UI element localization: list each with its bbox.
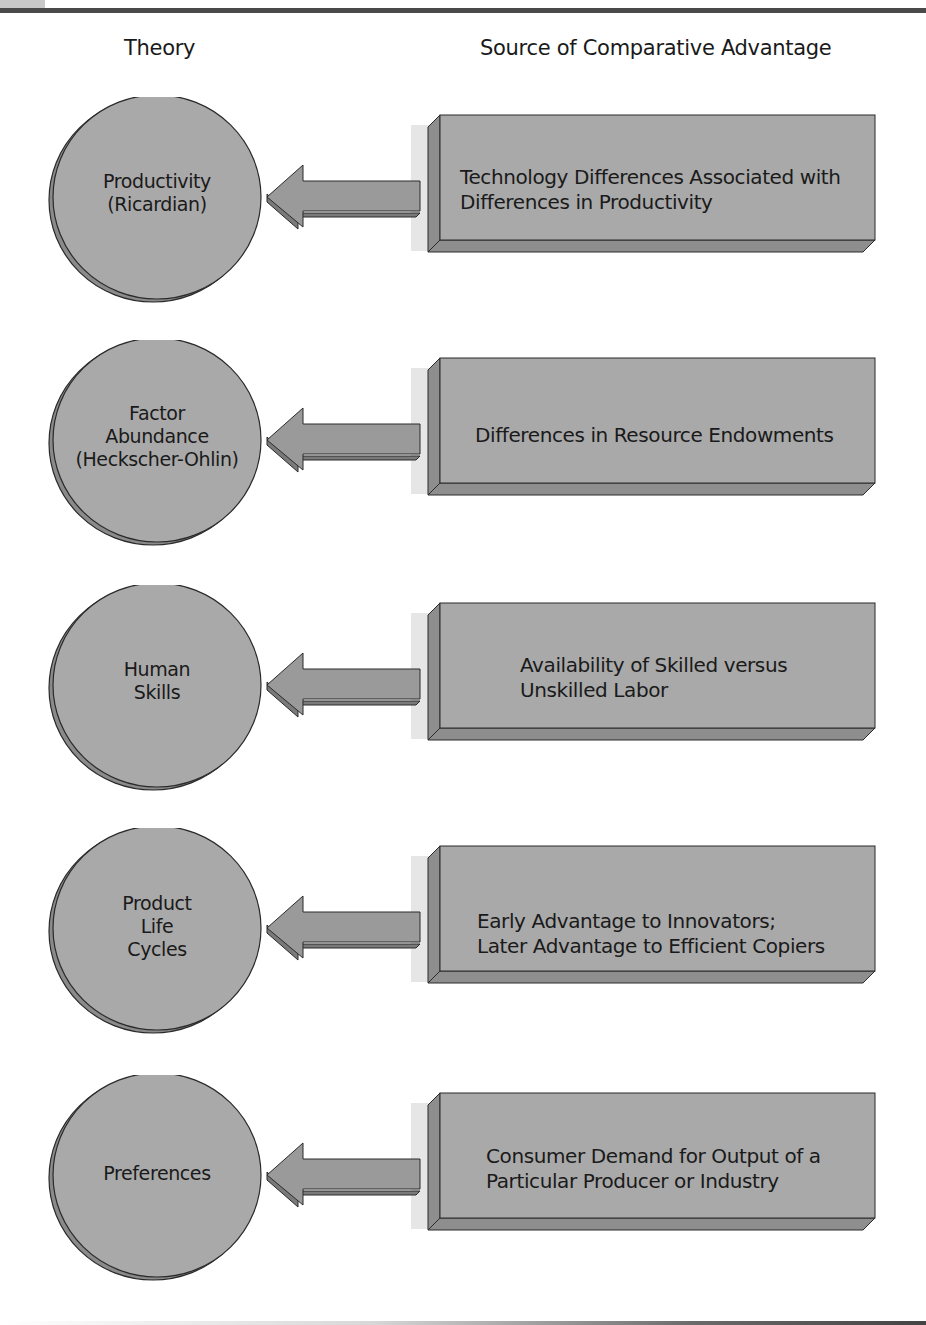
theory-row-human-skills: Human Skills Availability of Skilled ver…	[0, 585, 926, 815]
source-box-label: Consumer Demand for Output of a Particul…	[486, 1144, 821, 1194]
bottom-rule	[0, 1321, 926, 1325]
source-box-label: Differences in Resource Endowments	[475, 423, 834, 448]
theory-row-product-life-cycles: Product Life Cycles Early Advantage to I…	[0, 828, 926, 1058]
theory-circle-label: Product Life Cycles	[52, 892, 262, 961]
theory-circle-label: Factor Abundance (Heckscher-Ohlin)	[52, 402, 262, 471]
theory-row-productivity: Productivity (Ricardian) Technology Diff…	[0, 97, 926, 327]
top-rule	[0, 8, 926, 13]
theory-circle-label: Productivity (Ricardian)	[52, 170, 262, 216]
theory-circle-label: Preferences	[52, 1162, 262, 1185]
source-box-label: Early Advantage to Innovators; Later Adv…	[477, 909, 825, 959]
theory-column-header: Theory	[124, 36, 195, 60]
source-column-header: Source of Comparative Advantage	[480, 36, 831, 60]
source-box-label: Availability of Skilled versus Unskilled…	[520, 653, 787, 703]
source-box-label: Technology Differences Associated with D…	[460, 165, 841, 215]
theory-circle-label: Human Skills	[52, 658, 262, 704]
theory-row-preferences: Preferences Consumer Demand for Output o…	[0, 1075, 926, 1305]
theory-row-factor-abundance: Factor Abundance (Heckscher-Ohlin) Diffe…	[0, 340, 926, 570]
